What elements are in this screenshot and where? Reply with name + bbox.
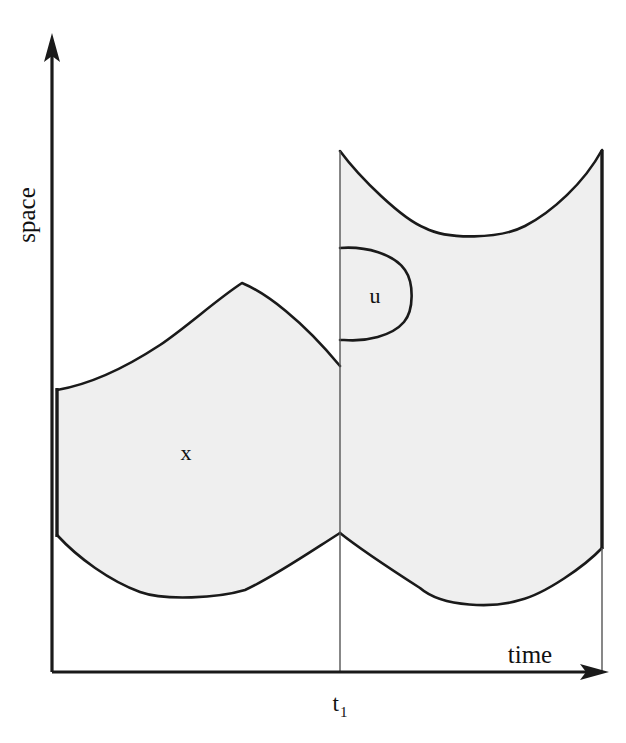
x-axis-label: time xyxy=(508,641,552,669)
t1-subscript-text: 1 xyxy=(339,704,348,720)
figure-canvas: space time x u t1 xyxy=(0,0,626,743)
state-tube-left-fill xyxy=(57,283,340,598)
diagram-svg xyxy=(0,0,626,743)
control-set-label: u xyxy=(370,283,381,309)
y-axis-label: space xyxy=(13,187,41,243)
t1-tick-label: t1 xyxy=(333,691,348,721)
state-tube-right-fill xyxy=(340,150,602,605)
state-tube-label: x xyxy=(181,440,192,466)
